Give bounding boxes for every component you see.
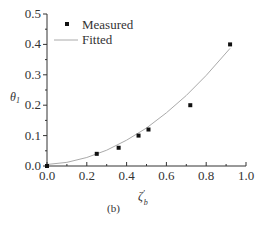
fitted-curve: [47, 48, 230, 164]
measured-point: [188, 103, 192, 107]
y-tick-label: 0.5: [25, 6, 41, 21]
legend-label-fitted: Fitted: [82, 32, 113, 47]
x-tick-label: 1.0: [238, 168, 254, 183]
x-axis-label: ζ'b: [138, 188, 148, 207]
y-tick-label: 0.0: [25, 158, 41, 173]
figure-caption: (b): [107, 202, 120, 215]
measured-point: [95, 152, 99, 156]
measured-point: [137, 134, 141, 138]
legend: MeasuredFitted: [54, 17, 134, 47]
x-tick-label: 0.0: [39, 168, 55, 183]
measured-point: [45, 164, 49, 168]
legend-label-measured: Measured: [82, 17, 134, 32]
x-tick-label: 0.8: [198, 168, 214, 183]
chart: 0.00.20.40.60.81.00.00.10.20.30.40.5 Mea…: [0, 0, 262, 228]
x-tick-label: 0.6: [158, 168, 175, 183]
y-axis-label: θ1: [10, 90, 20, 105]
x-tick-label: 0.2: [79, 168, 95, 183]
y-tick-label: 0.2: [25, 97, 41, 112]
y-tick-label: 0.4: [25, 36, 42, 51]
legend-marker-measured: [65, 22, 69, 26]
plot-area: [45, 42, 232, 168]
measured-point: [146, 128, 150, 132]
axes: 0.00.20.40.60.81.00.00.10.20.30.40.5: [25, 6, 254, 183]
measured-point: [117, 146, 121, 150]
x-tick-label: 0.4: [118, 168, 135, 183]
y-tick-label: 0.1: [25, 128, 41, 143]
y-tick-label: 0.3: [25, 67, 41, 82]
measured-point: [228, 42, 232, 46]
